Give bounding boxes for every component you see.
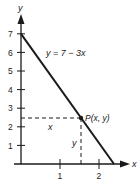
y-axis: y <box>17 3 25 164</box>
x-tick-label: 1 <box>58 171 63 181</box>
y-tick-label: 3 <box>8 103 13 113</box>
line-graph-diagram: y x 1 2 3 4 5 6 7 1 2 y = 7 − 3x x y <box>0 0 139 182</box>
y-tick-label: 4 <box>8 85 13 95</box>
y-tick-label: 2 <box>8 122 13 132</box>
x-axis-label: x <box>131 159 137 169</box>
y-axis-arrow-icon <box>18 14 25 24</box>
point-p-marker <box>79 116 83 120</box>
horizontal-distance-label: x <box>47 122 53 132</box>
y-tick-label: 5 <box>8 66 13 76</box>
point-p-label: P(x, y) <box>85 113 110 123</box>
vertical-distance-label: y <box>71 138 77 148</box>
x-axis-arrow-icon <box>120 161 130 168</box>
x-axis: x <box>14 159 137 169</box>
y-tick-label: 7 <box>8 29 13 39</box>
x-tick-label: 2 <box>97 171 102 181</box>
equation-label: y = 7 − 3x <box>45 48 86 58</box>
y-tick-labels: 1 2 3 4 5 6 7 <box>8 29 13 151</box>
x-tick-labels: 1 2 <box>58 171 102 181</box>
y-axis-label: y <box>17 3 23 13</box>
y-tick-label: 6 <box>8 48 13 58</box>
y-tick-label: 1 <box>8 141 13 151</box>
